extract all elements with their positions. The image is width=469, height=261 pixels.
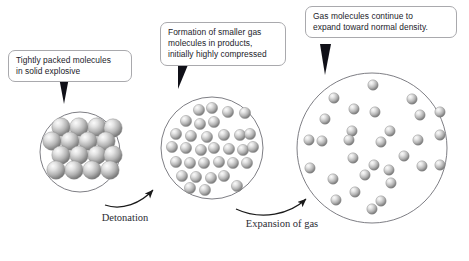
molecule (244, 128, 255, 139)
molecule (367, 204, 377, 214)
molecule (376, 137, 386, 147)
molecule (65, 161, 83, 179)
stage-3-circle (297, 73, 447, 223)
molecule (208, 116, 219, 127)
molecule (170, 156, 181, 167)
arrow-expansion-path (236, 199, 306, 215)
molecule (435, 107, 445, 117)
molecule (348, 153, 358, 163)
molecule (435, 160, 445, 170)
molecule (185, 130, 196, 141)
molecule (413, 135, 423, 145)
molecule (194, 118, 205, 129)
molecule (386, 178, 396, 188)
molecule (101, 161, 119, 179)
molecule (190, 171, 201, 182)
callout-gas-formation: Formation of smaller gas molecules in pr… (160, 22, 286, 66)
molecule (218, 129, 229, 140)
molecule (415, 110, 425, 120)
molecule (329, 93, 339, 103)
molecule (237, 144, 248, 155)
molecule (369, 160, 379, 170)
molecule (176, 170, 187, 181)
molecule (227, 157, 238, 168)
molecule (234, 129, 245, 140)
molecule (360, 170, 370, 180)
molecule (376, 196, 386, 206)
molecule (198, 157, 209, 168)
molecule (304, 135, 314, 145)
molecule (170, 128, 181, 139)
molecule (218, 170, 229, 181)
molecule (370, 107, 380, 117)
label-detonation: Detonation (70, 212, 180, 225)
molecule (350, 187, 360, 197)
molecule (320, 114, 330, 124)
molecule (385, 126, 395, 136)
molecule (180, 142, 191, 153)
molecule (407, 94, 417, 104)
molecule (223, 143, 234, 154)
molecule (317, 136, 327, 146)
molecule (239, 107, 250, 118)
molecule (193, 104, 204, 115)
molecule (195, 144, 206, 155)
molecule (47, 161, 65, 179)
molecule (208, 142, 219, 153)
molecule (201, 131, 212, 142)
molecule (180, 115, 191, 126)
molecule (83, 161, 101, 179)
molecule (328, 174, 338, 184)
molecule (435, 130, 445, 140)
molecule (331, 195, 341, 205)
molecule (184, 157, 195, 168)
molecule (417, 161, 427, 171)
molecule (349, 104, 359, 114)
molecule (231, 180, 242, 191)
molecule (384, 165, 394, 175)
stage-1-molecules (43, 118, 122, 179)
callout-3-tail (320, 44, 331, 75)
callout-solid-explosive: Tightly packed molecules in solid explos… (8, 50, 132, 82)
molecule (247, 141, 258, 152)
callout-gas-expansion: Gas molecules continue to expand toward … (305, 6, 457, 38)
molecule (206, 102, 217, 113)
molecule (344, 135, 354, 145)
molecule (166, 141, 177, 152)
molecule (213, 156, 224, 167)
molecule (199, 184, 210, 195)
label-expansion: Expansion of gas (242, 218, 322, 231)
molecule (184, 182, 195, 193)
molecule (368, 80, 378, 90)
molecule (399, 151, 409, 161)
molecule (205, 172, 216, 183)
molecule (241, 157, 252, 168)
diagram-canvas: Tightly packed molecules in solid explos… (0, 0, 469, 261)
molecule (305, 163, 315, 173)
arrow-detonation-path (105, 190, 153, 207)
molecule (222, 106, 233, 117)
